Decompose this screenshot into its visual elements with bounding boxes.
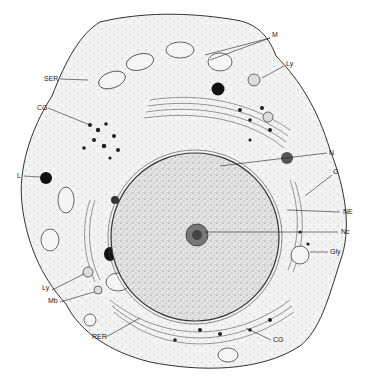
label-rough-er: RER	[92, 333, 107, 341]
cell-diagram	[0, 0, 368, 387]
label-glycogen: Gly	[330, 248, 341, 256]
label-granules-upper: CG	[37, 104, 48, 112]
label-nucleus: N	[329, 149, 334, 157]
label-lysosome-lower: Ly	[42, 284, 49, 292]
label-golgi: G	[333, 168, 338, 176]
label-lysosome-upper: Ly	[286, 60, 293, 68]
label-microbody: Mb	[48, 297, 58, 305]
label-nuclear-envelope: NE	[343, 208, 353, 216]
label-lipid: L	[17, 172, 21, 180]
label-mitochondria: M	[272, 31, 278, 39]
label-nucleolus: Nc	[341, 228, 350, 236]
label-smooth-er: SER	[44, 75, 58, 83]
label-granules-lower: CG	[273, 336, 284, 344]
